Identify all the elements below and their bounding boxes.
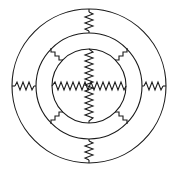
connector-lower-left — [51, 112, 63, 124]
connector-bottom-zigzag — [85, 141, 93, 160]
connector-upper-right — [115, 48, 127, 60]
concentric-resistor-network-diagram — [0, 0, 177, 170]
connector-upper-left — [51, 48, 63, 60]
connector-left-zigzag — [15, 82, 34, 90]
connector-upper-right-zigzag — [115, 48, 127, 60]
connector-lower-right-zigzag — [115, 112, 127, 124]
diagram-root — [0, 0, 177, 170]
connector-right-zigzag — [144, 82, 163, 90]
connector-bottom — [85, 139, 93, 163]
connector-upper-left-zigzag — [51, 48, 63, 60]
connector-lower-right — [115, 112, 127, 124]
connector-top-zigzag — [85, 12, 93, 31]
connector-lower-left-zigzag — [51, 112, 63, 124]
connector-right — [142, 82, 166, 90]
connector-top — [85, 9, 93, 33]
connector-left — [12, 82, 36, 90]
